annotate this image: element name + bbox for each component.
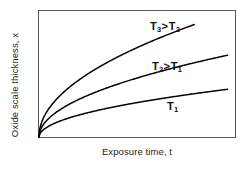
curve-label-t1-sub: 1 (174, 105, 178, 114)
curve-label-t2: T2>T1 (152, 60, 182, 72)
curve-label-t2-base2: T (171, 60, 178, 72)
plot-area (0, 0, 248, 170)
curve-label-t1: T1 (167, 100, 178, 112)
curve-label-t3-base: T (150, 20, 157, 32)
curve-label-t3-relation: > (161, 20, 169, 32)
curve-label-t1-base: T (167, 100, 174, 112)
curve-label-t2-sub: 2 (159, 65, 163, 74)
figure-container: Oxide scale thickness, x Exposure time, … (0, 0, 248, 170)
curve-label-t2-base: T (152, 60, 159, 72)
curve-label-t3-base2: T (169, 20, 176, 32)
curve-label-t3-sub2: 2 (176, 25, 180, 34)
curve-label-t3: T3>T2 (150, 20, 180, 32)
curve-label-t3-sub: 3 (157, 25, 161, 34)
curve-label-t2-relation: > (163, 60, 171, 72)
curve-label-t2-sub2: 1 (178, 65, 182, 74)
